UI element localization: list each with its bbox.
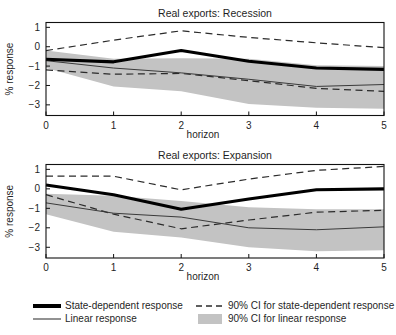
xtick-label-1: 0 (43, 120, 49, 131)
xtick-label-1: 1 (111, 120, 117, 131)
legend-marker-gray-swatch (198, 314, 222, 324)
xtick-label-2: 1 (111, 262, 117, 273)
xtick-label-1: 5 (381, 120, 387, 131)
xtick-label-2: 4 (314, 262, 320, 273)
legend-item-ci_state: 90% CI for state-dependent response (196, 300, 395, 311)
ytick-label-1: 1 (34, 22, 40, 33)
ytick-label-2: −1 (29, 203, 41, 214)
panel-title-2: Real exports: Expansion (158, 149, 272, 161)
panel-1: Real exports: Recession10−1−2−3012345hor… (4, 7, 387, 140)
x-axis-label-1: horizon (187, 129, 220, 140)
xtick-label-2: 2 (178, 262, 184, 273)
legend-label-ci_state: 90% CI for state-dependent response (228, 300, 395, 311)
ytick-label-2: −3 (29, 242, 41, 253)
ytick-label-1: −3 (29, 99, 41, 110)
legend-label-ci_linear: 90% CI for linear response (228, 313, 347, 324)
legend: State-dependent responseLinear response9… (33, 300, 395, 324)
legend-label-linear: Linear response (65, 313, 137, 324)
legend-item-ci_linear: 90% CI for linear response (198, 313, 347, 324)
panel-title-1: Real exports: Recession (158, 7, 272, 19)
legend-item-state: State-dependent response (33, 300, 183, 311)
xtick-label-2: 5 (381, 262, 387, 273)
x-axis-label-2: horizon (187, 271, 220, 282)
legend-item-linear: Linear response (33, 313, 137, 324)
ytick-label-1: −2 (29, 80, 41, 91)
xtick-label-1: 3 (246, 120, 252, 131)
y-axis-label-1: % response (4, 42, 15, 95)
ytick-label-1: 0 (34, 41, 40, 52)
ytick-label-2: 0 (34, 183, 40, 194)
ytick-label-2: 1 (34, 164, 40, 175)
y-axis-label-2: % response (4, 184, 15, 237)
xtick-label-2: 3 (246, 262, 252, 273)
xtick-label-2: 0 (43, 262, 49, 273)
xtick-label-1: 4 (314, 120, 320, 131)
ytick-label-2: −2 (29, 222, 41, 233)
figure-container: Real exports: Recession10−1−2−3012345hor… (0, 0, 396, 335)
legend-label-state: State-dependent response (65, 300, 183, 311)
xtick-label-1: 2 (178, 120, 184, 131)
ytick-label-1: −1 (29, 61, 41, 72)
impulse-response-figure: Real exports: Recession10−1−2−3012345hor… (0, 0, 396, 335)
panel-2: Real exports: Expansion10−1−2−3012345hor… (4, 149, 387, 282)
